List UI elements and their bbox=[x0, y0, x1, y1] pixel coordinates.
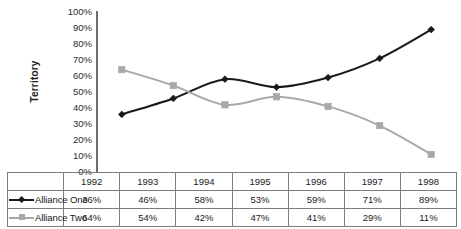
y-tick-label: 50% bbox=[52, 87, 92, 97]
y-tick-label: 70% bbox=[52, 55, 92, 65]
x-axis-category-label: 1998 bbox=[400, 173, 456, 191]
data-point-marker bbox=[170, 82, 176, 88]
table-cell-value: 89% bbox=[400, 191, 456, 209]
data-point-marker bbox=[119, 66, 125, 72]
chart-figure: Territory 100%90%80%70%60%50%40%30%20%10… bbox=[0, 0, 461, 229]
data-point-marker bbox=[325, 74, 332, 81]
table-row: Alliance Two64%54%42%47%41%29%11% bbox=[8, 209, 457, 227]
table-row-years: 1992199319941995199619971998 bbox=[8, 173, 457, 191]
y-tick-label: 60% bbox=[52, 71, 92, 81]
table-row: Alliance One36%46%58%53%59%71%89% bbox=[8, 191, 457, 209]
table-cell-value: 42% bbox=[176, 209, 232, 227]
y-tick-label: 30% bbox=[52, 119, 92, 129]
data-point-marker bbox=[273, 94, 279, 100]
y-axis-title: Territory bbox=[29, 22, 40, 142]
table-cell-value: 11% bbox=[400, 209, 456, 227]
plot-area bbox=[96, 0, 457, 173]
data-point-marker bbox=[222, 76, 229, 83]
table-cell-value: 41% bbox=[288, 209, 344, 227]
x-axis-category-label: 1992 bbox=[64, 173, 120, 191]
table-corner-spacer bbox=[8, 173, 64, 191]
legend-label: Alliance Two bbox=[35, 212, 87, 223]
legend-item-2[interactable]: Alliance Two bbox=[8, 209, 64, 227]
table-cell-value: 58% bbox=[176, 191, 232, 209]
series-1 bbox=[118, 26, 434, 118]
x-axis-category-label: 1997 bbox=[344, 173, 400, 191]
y-tick-label: 10% bbox=[52, 151, 92, 161]
legend-diamond-marker-icon bbox=[8, 194, 35, 205]
table-cell-value: 47% bbox=[232, 209, 288, 227]
table-cell-value: 71% bbox=[344, 191, 400, 209]
table-cell-value: 54% bbox=[120, 209, 176, 227]
data-point-marker bbox=[222, 102, 228, 108]
table-cell-value: 53% bbox=[232, 191, 288, 209]
y-tick-label: 20% bbox=[52, 135, 92, 145]
y-tick-label: 40% bbox=[52, 103, 92, 113]
table-cell-value: 46% bbox=[120, 191, 176, 209]
x-axis-category-label: 1995 bbox=[232, 173, 288, 191]
data-point-marker bbox=[376, 122, 382, 128]
data-point-marker bbox=[118, 111, 125, 118]
data-table-wrap: 1992199319941995199619971998Alliance One… bbox=[7, 172, 457, 227]
x-axis-category-label: 1996 bbox=[288, 173, 344, 191]
series-canvas bbox=[96, 0, 457, 173]
series-line bbox=[122, 70, 431, 155]
y-tick-label: 90% bbox=[52, 23, 92, 33]
data-point-marker bbox=[376, 55, 383, 62]
series-line bbox=[122, 30, 431, 115]
legend-square-marker-icon bbox=[8, 212, 35, 223]
table-cell-value: 59% bbox=[288, 191, 344, 209]
series-2 bbox=[119, 66, 435, 157]
data-point-marker bbox=[428, 151, 434, 157]
data-point-marker bbox=[273, 84, 280, 91]
table-cell-value: 29% bbox=[344, 209, 400, 227]
data-point-marker bbox=[170, 95, 177, 102]
legend-label: Alliance One bbox=[35, 194, 88, 205]
data-point-marker bbox=[325, 103, 331, 109]
x-axis-category-label: 1994 bbox=[176, 173, 232, 191]
y-tick-label: 100% bbox=[52, 7, 92, 17]
y-tick-label: 80% bbox=[52, 39, 92, 49]
data-table: 1992199319941995199619971998Alliance One… bbox=[7, 172, 457, 227]
x-axis-category-label: 1993 bbox=[120, 173, 176, 191]
legend-item-1[interactable]: Alliance One bbox=[8, 191, 64, 209]
